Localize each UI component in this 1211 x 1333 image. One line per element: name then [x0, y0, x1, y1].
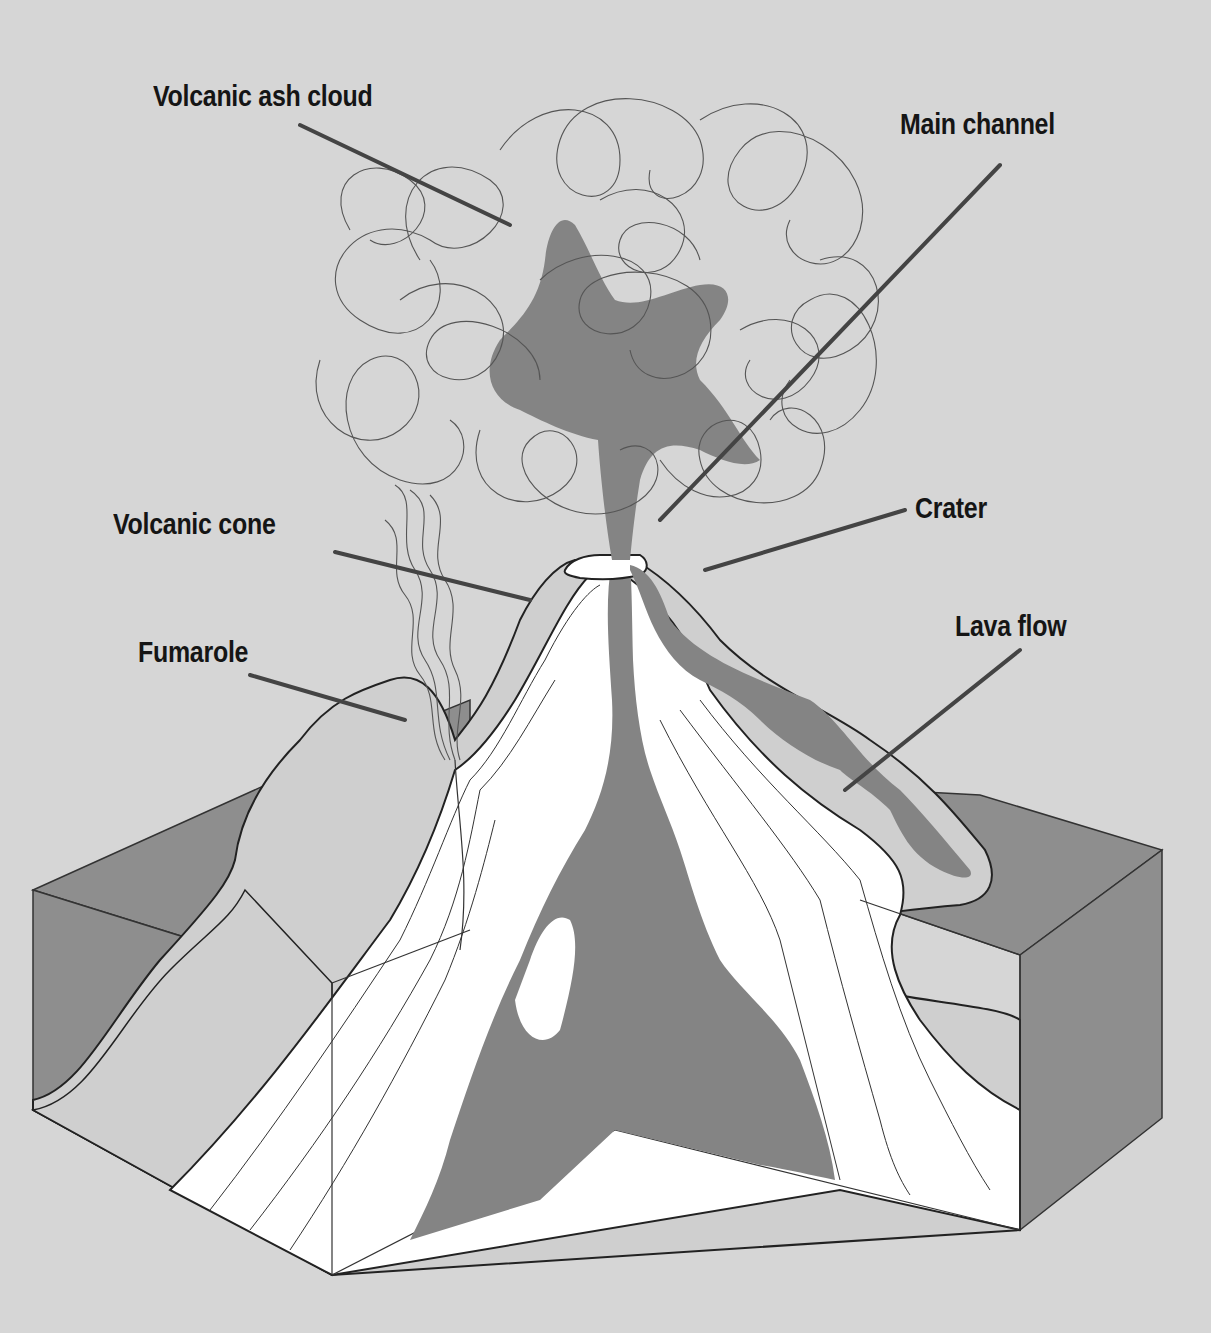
- label-crater: Crater: [915, 492, 987, 525]
- leader-lava-flow: [845, 650, 1020, 790]
- leader-volcanic-ash-cloud: [300, 125, 510, 225]
- label-main-channel: Main channel: [900, 108, 1055, 141]
- leader-crater: [705, 510, 905, 570]
- label-fumarole: Fumarole: [138, 636, 248, 669]
- label-volcanic-ash-cloud: Volcanic ash cloud: [153, 80, 372, 113]
- label-volcanic-cone: Volcanic cone: [113, 508, 276, 541]
- label-lava-flow: Lava flow: [955, 610, 1066, 643]
- leader-main-channel: [660, 165, 1000, 520]
- ash-column: [490, 220, 760, 560]
- leader-volcanic-cone: [335, 552, 530, 600]
- volcano-diagram: Volcanic ash cloud Main channel Crater V…: [0, 0, 1211, 1333]
